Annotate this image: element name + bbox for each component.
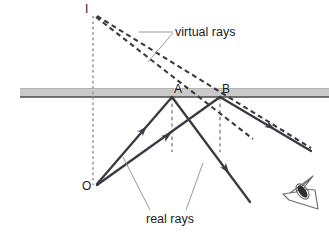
point-label-B: B (222, 82, 230, 96)
construction-lines (93, 16, 220, 185)
ray-diagram-figure: I A B O virtual rays real rays (0, 0, 329, 232)
reflected-ray-A (172, 97, 250, 202)
leader-lines-virtual (139, 32, 173, 62)
leader-lines-real (123, 157, 203, 210)
leader-virtual-2 (148, 33, 173, 62)
point-label-A: A (174, 82, 182, 96)
real-rays-group (97, 97, 311, 202)
ray-arrowheads (137, 121, 276, 175)
observer-eye (283, 176, 318, 209)
annotation-virtual-rays: virtual rays (175, 25, 235, 39)
leader-real-1 (123, 157, 150, 210)
diagram-canvas (0, 0, 329, 232)
incident-ray-OB (97, 97, 220, 185)
point-label-O: O (82, 179, 91, 193)
annotation-real-rays: real rays (146, 212, 194, 226)
leader-real-2 (186, 163, 203, 210)
point-label-I: I (85, 2, 88, 16)
